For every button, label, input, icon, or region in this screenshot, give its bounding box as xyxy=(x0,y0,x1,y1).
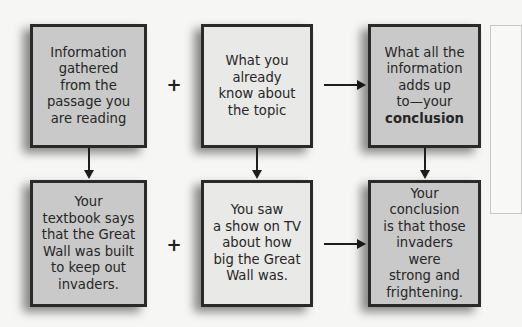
box-text: Information gathered from the passage yo… xyxy=(47,45,130,128)
arrow-down-icon xyxy=(88,148,90,171)
box-conclusion-definition: What all the information adds up to—your… xyxy=(368,24,481,148)
arrow-right-icon xyxy=(324,84,358,86)
arrow-right-icon xyxy=(324,243,358,245)
box-text: What you already know about the topic xyxy=(218,53,295,119)
plus-sign-top: + xyxy=(165,76,183,94)
box-text: Your conclusion is that those invaders w… xyxy=(379,186,470,302)
box-text: What all the information adds up to—your… xyxy=(384,45,464,128)
box-textbook-example: Your textbook says that the Great Wall w… xyxy=(30,180,147,307)
side-panel-outline xyxy=(490,25,522,214)
arrow-down-icon xyxy=(256,148,258,171)
arrow-down-icon xyxy=(424,148,426,171)
box-tv-show-example: You saw a show on TV about how big the G… xyxy=(201,180,313,307)
conclusion-bold-word: conclusion xyxy=(385,111,464,126)
box-prior-knowledge: What you already know about the topic xyxy=(201,24,313,148)
box-text: Your textbook says that the Great Wall w… xyxy=(42,194,136,293)
box-conclusion-example: Your conclusion is that those invaders w… xyxy=(368,180,481,307)
box-text: You saw a show on TV about how big the G… xyxy=(213,202,301,285)
box-passage-information: Information gathered from the passage yo… xyxy=(30,24,147,148)
plus-sign-bottom: + xyxy=(165,236,183,254)
